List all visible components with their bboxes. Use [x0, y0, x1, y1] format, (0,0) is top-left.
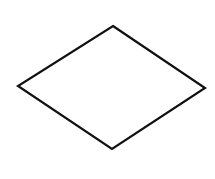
diagram-svg	[0, 0, 215, 179]
decision-diamond-shape	[18, 26, 205, 149]
diagram-canvas	[0, 0, 215, 179]
